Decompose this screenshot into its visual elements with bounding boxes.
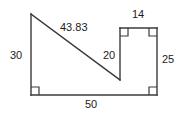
dimension-label-top-small: 14 (132, 9, 144, 20)
dimension-label-hypotenuse: 43.83 (60, 22, 88, 33)
dimension-label-bottom: 50 (85, 99, 97, 110)
right-angle-mark-rect-top-right (149, 28, 157, 36)
dimension-label-left-side: 30 (10, 50, 22, 61)
dimension-label-right-side: 25 (162, 54, 174, 65)
right-angle-mark-bottom-left (31, 87, 39, 95)
right-angle-mark-bottom-right (149, 87, 157, 95)
right-angle-mark-rect-top-left (120, 28, 128, 36)
dimension-label-inner-vertical: 20 (103, 50, 115, 61)
geometry-figure: 30 43.83 20 14 25 50 (0, 0, 184, 120)
